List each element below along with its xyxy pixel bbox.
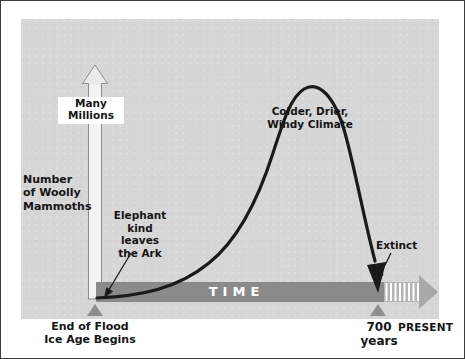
y-axis-top-label: Many Millions <box>58 97 124 124</box>
x-axis-start-label: End of Flood Ice Age Begins <box>25 320 155 346</box>
climate-annotation-label: Colder, Drier, Windy Climate <box>259 105 361 131</box>
x-axis-end-label: 700 years <box>358 320 400 348</box>
figure-frame: Many Millions Number of Woolly Mammoths … <box>0 0 465 359</box>
ark-annotation-label: Elephant kind leaves the Ark <box>109 209 171 259</box>
extinct-annotation-label: Extinct <box>376 239 417 251</box>
y-axis-label: Number of Woolly Mammoths <box>23 173 89 213</box>
tick-marker-start <box>87 304 103 316</box>
x-axis-present-label: PRESENT <box>398 321 453 333</box>
tick-marker-700 <box>370 304 386 316</box>
x-axis-label: TIME <box>109 284 359 299</box>
